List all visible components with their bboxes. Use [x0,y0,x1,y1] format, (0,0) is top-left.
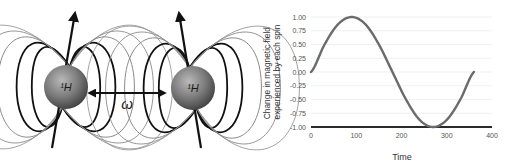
y-tick-label: -0.75 [290,110,306,117]
x-tick-label: 400 [486,132,498,139]
nucleus-label-left: ¹H [60,81,72,93]
x-axis-tick-labels: 0100200300400 [309,132,498,139]
nucleus-right: ¹H [171,66,215,110]
x-tick-label: 100 [350,132,362,139]
y-tick-label: 0.00 [292,69,306,76]
chart-gridlines [311,17,492,113]
y-tick-label: -1.00 [290,124,306,131]
y-tick-label: 1.00 [292,14,306,21]
x-axis-label: Time [392,152,412,162]
sine-chart: 1.000.750.500.250.00-0.25-0.50-0.75-1.00… [262,14,498,162]
y-tick-label: 0.25 [292,55,306,62]
coupling-label: ω [121,95,133,112]
nucleus-left: ¹H [44,65,88,109]
x-tick-label: 300 [441,132,453,139]
y-axis-label-line-1: Change in magnetic field [262,27,272,120]
y-tick-label: -0.25 [290,82,306,89]
x-tick-label: 200 [396,132,408,139]
y-tick-label: 0.75 [292,27,306,34]
y-tick-label: -0.50 [290,96,306,103]
y-axis-label: Change in magnetic field experienced by … [262,24,282,119]
y-axis-tick-labels: 1.000.750.500.250.00-0.25-0.50-0.75-1.00 [290,14,306,131]
nucleus-label-right: ¹H [187,82,199,94]
x-tick-label: 0 [309,132,313,139]
y-tick-label: 0.50 [292,41,306,48]
y-axis-label-line-2: experienced by each spin [272,24,282,119]
figure: ¹H ¹H ω 1.000.750.500.250.00-0.25-0.50-0… [0,0,505,165]
dipole-coupling-diagram: ¹H ¹H ω [0,13,299,150]
